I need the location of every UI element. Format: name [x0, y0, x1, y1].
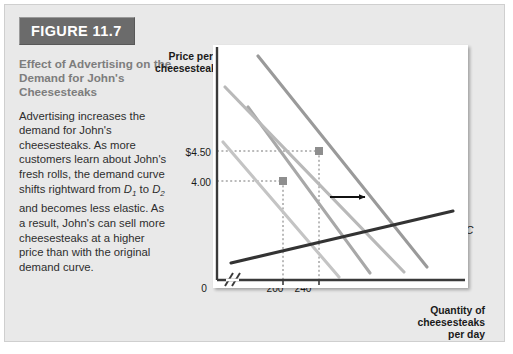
figure-caption-text: Advertising increases the demand for Joh…: [19, 109, 171, 275]
curve-mc: [231, 211, 453, 263]
chart-plot-panel: [213, 45, 468, 288]
y-tick-label-450: $4.50: [155, 147, 211, 158]
x-axis-break-icon: [225, 273, 240, 286]
equilibrium-marker-before: [279, 177, 287, 185]
x-axis-title-line-1: Quantity of: [401, 305, 485, 317]
caption-d1-symbol: D: [124, 183, 132, 195]
caption-segment-mid: to: [136, 183, 152, 195]
x-axis-title-line-2: cheesesteaks: [401, 317, 485, 329]
chart-svg: [213, 45, 468, 288]
equilibrium-marker-after: [315, 147, 323, 155]
y-axis-title-line-1: Price per: [155, 51, 213, 63]
figure-caption-column: FIGURE 11.7 Effect of Advertising on the…: [19, 17, 171, 274]
origin-label: 0: [193, 283, 207, 294]
x-axis-title-line-3: per day: [401, 329, 485, 341]
y-axis-title-line-2: cheesesteak: [155, 63, 213, 75]
y-tick-label-400: 4.00: [155, 177, 211, 188]
figure-number-badge: FIGURE 11.7: [19, 17, 135, 45]
figure-container: FIGURE 11.7 Effect of Advertising on the…: [4, 4, 505, 342]
x-axis-title: Quantity of cheesesteaks per day: [401, 305, 485, 342]
caption-segment-2: and becomes less elastic. As a result, J…: [19, 202, 165, 272]
guide-lines-equilibrium-1: [217, 181, 283, 280]
y-axis-title: Price per cheesesteak: [155, 51, 213, 75]
caption-d2-subscript: 2: [160, 189, 164, 198]
